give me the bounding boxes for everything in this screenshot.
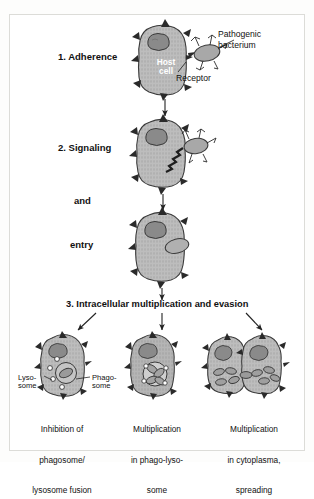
receptor-label: Receptor [176,74,211,84]
cell-spike [158,187,166,195]
outcome-1-caption-line2: phagosome/ [14,455,110,465]
lysosome [48,366,53,371]
outcome-1-caption-line1: Inhibition of [14,424,110,434]
cell-spike [204,383,211,390]
lysosome [55,357,60,362]
cell-spike [131,174,139,182]
spreading-bacterium [240,372,252,379]
lysosome [60,385,65,390]
cell-spike [180,178,188,185]
phagosome-label-line2: some [92,382,111,391]
cell-spike [131,55,139,62]
nucleus [146,129,167,146]
stage-2-signaling-illustration [129,114,216,210]
cell-spike [37,384,44,391]
cell-spike [158,207,167,215]
cell-spike [127,384,134,391]
branch-arrow-left [78,313,96,330]
step-2-label: 2. Signaling [58,143,111,154]
outcome-2-caption-line3: some [110,485,204,495]
cell-spike [181,272,189,279]
stage-3-branch-arrows [78,313,262,330]
outcome-1-caption-line3: lysosome fusion [14,485,110,495]
nucleus [145,222,166,239]
outcome-3-illustration [201,332,290,399]
branch-arrow-right [246,313,262,330]
lysosome [163,381,167,385]
cell-spike [125,342,132,350]
outcome-3-caption-line1: Multiplication [204,424,304,434]
cell-spike [283,362,290,367]
nucleus [139,344,157,359]
cell-spike [279,342,286,349]
cell-spike [124,363,131,369]
cell-spike [161,19,170,27]
cell-spike [170,388,177,395]
cell-spike [279,385,286,392]
outcome-2-caption-line2: in phago-lyso- [110,455,204,465]
outcome-3-caption-line2: in cytoplasma, [204,455,304,465]
cell-spike [226,391,233,398]
host-cell-stage2 [129,114,189,195]
cell-spike [183,29,191,37]
lysosome [142,379,146,383]
outcome-2-caption-line1: Multiplication [110,424,204,434]
cell-spike [133,80,141,88]
step-2-and-label: and [74,196,91,207]
nucleus-right [250,346,268,361]
step-3-label: 3. Intracellular multiplication and evas… [66,299,248,309]
stage-2-entry-illustration [128,207,190,300]
outcome-3-caption-line3: spreading [204,485,304,495]
cell-spike [128,243,136,250]
cell-membrane-right [242,335,282,393]
cell-spike [160,93,168,101]
cell-spike [184,84,192,91]
step-1-label: 1. Adherence [58,52,117,63]
cell-spike [175,361,182,366]
cell-spike [201,363,208,369]
lysosome [164,366,168,370]
cell-spike [80,388,87,395]
cell-spike [129,220,137,228]
pathogenic-bacterium-label-line1: Pathogenic [218,30,261,40]
cell-spike [202,344,209,351]
nucleus [148,34,169,51]
cell-spike [35,342,42,350]
lysosome [144,364,148,368]
outcome-1-illustration [34,331,92,400]
cell-spike [130,268,138,276]
cell-spike [34,363,41,369]
cell-spike [130,127,138,135]
lysosome-label-line2: some [18,382,37,391]
cell-spike [85,361,92,366]
outcome-2-caption: Multiplication in phago-lyso- some [110,404,204,499]
cell-spike [261,392,268,399]
step-2-entry-label: entry [70,240,93,251]
cell-spike [159,114,168,122]
outcome-3-caption: Multiplication in cytoplasma, spreading [204,404,304,499]
outcome-2-illustration [124,331,182,400]
host-cell-entry [128,207,190,289]
nucleus-left [215,346,232,361]
lysosome [51,377,56,382]
pathogenic-bacterium-label-line2: bacterium [218,41,256,51]
cell-spike [129,150,137,157]
cell-membrane-left [208,336,247,393]
outcome-1-caption: Inhibition of phagosome/ lysosome fusion [14,404,110,499]
bacterium-body [183,137,209,155]
nucleus [49,344,67,359]
pathogenic-bacterium-stage2 [182,129,216,163]
cell-spike [157,281,165,289]
cell-spike [132,32,140,40]
